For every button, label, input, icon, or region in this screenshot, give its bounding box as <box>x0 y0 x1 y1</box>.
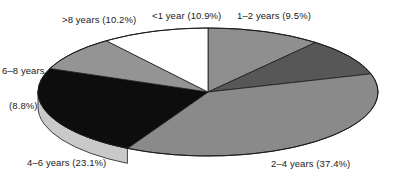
slice-label-6-8-years: 6–8 years (8.8%) <box>2 42 45 135</box>
pie-chart: <1 year (10.9%) 1–2 years (9.5%) 2–4 yea… <box>0 0 399 183</box>
slice-label-2-4-years: 2–4 years (37.4%) <box>271 158 350 170</box>
slice-label-1-2-years: 1–2 years (9.5%) <box>237 10 311 22</box>
slice-label-6-8-years-line2: (8.8%) <box>2 100 45 112</box>
slice-label-gt8-years: >8 years (10.2%) <box>62 14 136 26</box>
slice-label-lt1-year: <1 year (10.9%) <box>152 10 221 22</box>
pie-slice-tops <box>38 28 378 156</box>
pie-chart-graphic <box>0 0 399 183</box>
slice-label-6-8-years-line1: 6–8 years <box>2 65 45 77</box>
slice-label-4-6-years: 4–6 years (23.1%) <box>27 157 106 169</box>
